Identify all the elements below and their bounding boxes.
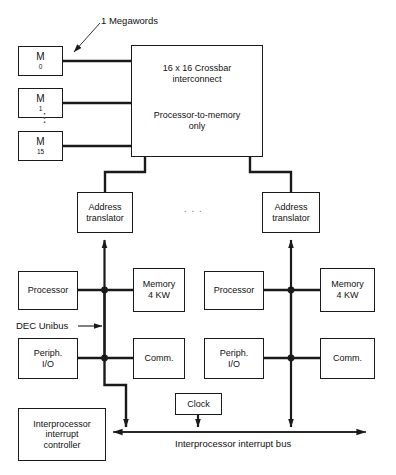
- comm-left: Comm.: [133, 338, 185, 379]
- megawords-label: 1 Megawords: [101, 15, 158, 26]
- comm-right-label: Comm.: [333, 353, 362, 364]
- address-translator-left: Address translator: [77, 192, 133, 233]
- crossbar-line-1: 16 x 16 Crossbar: [163, 63, 232, 74]
- peripheral-io-right: Periph. I/O: [204, 338, 264, 379]
- memory-4kw-left-line-1: Memory: [143, 279, 176, 290]
- crossbar-to-left-translator-link: [105, 157, 145, 192]
- memory-module-m15-label: M: [36, 136, 44, 148]
- interprocessor-interrupt-bus-label: Interprocessor interrupt bus: [175, 438, 291, 449]
- clock-block: Clock: [175, 393, 222, 415]
- memory-module-m1-label: M: [36, 93, 44, 105]
- interrupt-controller-line-3: controller: [43, 440, 80, 451]
- interrupt-controller-line-2: interrupt: [45, 429, 78, 440]
- memory-4kw-right-line-1: Memory: [331, 279, 364, 290]
- memory-module-m0: M0: [18, 46, 63, 76]
- left-unibus-to-interrupt-bus: [105, 358, 127, 427]
- memory-4kw-left: Memory 4 KW: [133, 268, 185, 312]
- dec-unibus-label: DEC Unibus: [16, 320, 68, 331]
- memory-4kw-right: Memory 4 KW: [320, 268, 375, 312]
- address-translator-left-line-2: translator: [86, 213, 124, 224]
- peripheral-io-right-line-2: I/O: [228, 359, 240, 370]
- crossbar-line-3: Processor-to-memory: [154, 110, 241, 121]
- crossbar-interconnect-block: 16 x 16 Crossbar interconnect Processor-…: [131, 45, 263, 157]
- address-translator-left-line-1: Address: [88, 202, 121, 213]
- processor-right: Processor: [204, 271, 264, 310]
- processor-left-label: Processor: [28, 285, 69, 296]
- memory-module-m15: M15: [18, 131, 63, 161]
- crossbar-line-4: only: [189, 121, 206, 132]
- clusters-horizontal-ellipsis: . . .: [184, 203, 203, 214]
- right-unibus-junction-top: [288, 287, 295, 294]
- address-translator-right-line-2: translator: [272, 213, 310, 224]
- peripheral-io-right-line-1: Periph.: [220, 348, 249, 359]
- block-diagram-canvas: 1 Megawords M0 M1 ⋮ M15 16 x 16 Crossbar…: [0, 0, 396, 475]
- memory-module-m0-label: M: [36, 51, 44, 63]
- crossbar-to-right-translator-link: [250, 157, 291, 192]
- memory-4kw-right-line-2: 4 KW: [336, 290, 358, 301]
- memory-modules-vertical-ellipsis: ⋮: [38, 110, 51, 125]
- address-translator-right-line-1: Address: [274, 202, 307, 213]
- processor-right-label: Processor: [214, 285, 255, 296]
- peripheral-io-left-line-1: Periph.: [34, 348, 63, 359]
- interprocessor-interrupt-controller: Interprocessor interrupt controller: [18, 408, 106, 461]
- memory-module-m15-index: 15: [36, 148, 44, 156]
- crossbar-line-2: interconnect: [172, 74, 221, 85]
- clock-label: Clock: [187, 399, 210, 410]
- peripheral-io-left-line-2: I/O: [42, 359, 54, 370]
- comm-right: Comm.: [320, 338, 375, 379]
- peripheral-io-left: Periph. I/O: [18, 338, 78, 379]
- address-translator-right: Address translator: [262, 192, 320, 233]
- interrupt-controller-line-1: Interprocessor: [33, 419, 91, 430]
- processor-left: Processor: [18, 271, 78, 310]
- right-unibus-junction-bottom: [288, 355, 295, 362]
- megawords-pointer-arrow: [74, 23, 100, 52]
- memory-to-crossbar-links: [63, 61, 131, 146]
- comm-left-label: Comm.: [145, 353, 174, 364]
- memory-module-m0-index: 0: [36, 63, 44, 71]
- left-unibus-junction-top: [101, 287, 108, 294]
- memory-4kw-left-line-2: 4 KW: [148, 290, 170, 301]
